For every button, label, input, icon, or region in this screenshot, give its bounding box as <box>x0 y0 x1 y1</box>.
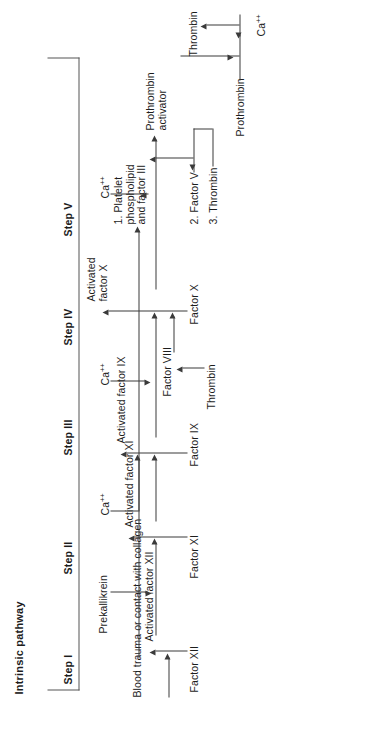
arrowhead-activated-factor-ix <box>120 451 126 457</box>
line-ixa-to-x <box>155 316 156 437</box>
node-prothrombin-activator-line1: Prothrombin <box>143 72 155 130</box>
node-thrombin-v: 3. Thrombin <box>206 167 218 224</box>
node-factor-ix: Factor IX <box>187 423 199 467</box>
arrowhead-ca-step4 <box>144 379 150 385</box>
arrowhead-xiia-to-xi <box>151 538 157 544</box>
cofactor-ca-step3-charge: ++ <box>97 493 106 501</box>
diagram-title: Intrinsic pathway <box>12 601 24 694</box>
arrowhead-xa-to-activator <box>151 135 157 141</box>
line-xiia-to-xi <box>155 542 156 635</box>
arrowhead-thrombin-v <box>189 164 195 170</box>
node-activated-factor-ix: Activated factor IX <box>114 356 126 443</box>
arrowhead-ixa-to-x <box>151 312 157 318</box>
arrowhead-trigger <box>164 653 170 659</box>
cofactor-ca-step5-top-symbol: Ca <box>99 184 111 198</box>
node-prothrombin-activator: Prothrombin activator <box>143 56 167 130</box>
cofactor-ca-step5-top-charge: ++ <box>97 176 106 184</box>
arrowhead-activated-factor-xi <box>128 535 134 541</box>
line-to-thrombin <box>206 24 239 25</box>
cofactor-ca-step5-top: Ca++ <box>96 176 111 198</box>
node-activated-factor-x-line2: factor X <box>96 264 108 301</box>
arrowhead-ca-prothrombin <box>235 32 241 38</box>
node-platelet-line1: 1. Platelet <box>111 176 123 224</box>
line-factor-xii-up <box>155 650 187 651</box>
arrowhead-activated-factor-x <box>102 309 108 315</box>
line-bracket-to-platelet <box>138 230 139 658</box>
arrowhead-ca-step5-top <box>140 192 146 198</box>
diagram-canvas: Intrinsic pathway Step I Blood trauma or… <box>0 0 389 736</box>
line-factor-ix-up <box>126 452 187 453</box>
step-label-2: Step II <box>61 541 73 574</box>
node-prothrombin-activator-line2: activator <box>155 89 167 130</box>
cofactor-ca-step4: Ca++ <box>96 363 111 385</box>
node-thrombin-viii: Thrombin <box>204 364 216 409</box>
arrowhead-prothrombin-activator-down <box>227 54 233 60</box>
line-prekallikrein-down <box>110 591 146 592</box>
line-xa-to-activator <box>155 139 156 289</box>
cofactor-ca-step4-symbol: Ca <box>99 371 111 385</box>
arrowhead-prekallikrein <box>145 590 151 596</box>
line-ca-step4-down <box>110 380 145 381</box>
coagulation-intrinsic-pathway-diagram: Intrinsic pathway Step I Blood trauma or… <box>0 0 389 736</box>
step-bracket <box>47 57 79 690</box>
cofactor-ca-prothrombin: Ca++ <box>252 14 267 36</box>
node-prothrombin: Prothrombin <box>233 78 245 136</box>
arrowhead-bracket-to-platelet <box>134 226 140 232</box>
node-trigger: Blood trauma or contact with collagen <box>130 518 142 697</box>
arrowhead-xia-to-ix <box>151 454 157 460</box>
arrowhead-viii-to-x <box>169 312 175 318</box>
step-label-3: Step III <box>61 419 73 455</box>
arrowhead-activated-factor-xii <box>149 649 155 655</box>
cofactor-ca-step4-charge: ++ <box>97 363 106 371</box>
cofactor-ca-step3-symbol: Ca <box>99 501 111 515</box>
node-thrombin-final: Thrombin <box>186 11 198 56</box>
node-factor-v: 2. Factor V <box>187 172 199 224</box>
arrowhead-v-up-to-activator <box>149 156 155 162</box>
node-activated-factor-x-line1: Activated <box>84 257 96 301</box>
line-thrombin-viii-up <box>182 367 204 368</box>
node-factor-xii: Factor XII <box>187 645 199 692</box>
arrowhead-thrombin-final <box>200 23 206 29</box>
step-label-4: Step IV <box>61 308 73 345</box>
line-thrombin-v <box>212 128 213 166</box>
line-v-up-to-activator <box>155 157 193 158</box>
node-prekallikrein: Prekallikrein <box>96 575 108 634</box>
line-trigger-to-xii <box>168 657 169 697</box>
line-factor-xi-up <box>134 536 187 537</box>
cofactor-ca-step3: Ca++ <box>96 493 111 515</box>
arrowhead-thrombin-viii <box>176 366 182 372</box>
node-activated-factor-x: Activated factor X <box>84 231 108 301</box>
node-factor-viii: Factor VIII <box>160 346 172 396</box>
line-viii-to-x <box>173 316 174 352</box>
line-xia-to-ix <box>155 458 156 521</box>
node-factor-x: Factor X <box>187 284 199 324</box>
step-label-1: Step I <box>61 654 73 684</box>
line-thrombin-v-riser <box>193 128 212 129</box>
step-label-5: Step V <box>61 202 73 236</box>
line-prothrombin <box>239 34 240 80</box>
node-factor-xi: Factor XI <box>187 535 199 579</box>
node-platelet-phospholipid: 1. Platelet phospholipid and factor III <box>112 146 147 224</box>
cofactor-ca-prothrombin-charge: ++ <box>253 14 262 22</box>
cofactor-ca-prothrombin-symbol: Ca <box>255 22 267 36</box>
line-factor-x-up <box>108 310 187 311</box>
line-ca-step3-down <box>110 510 138 511</box>
